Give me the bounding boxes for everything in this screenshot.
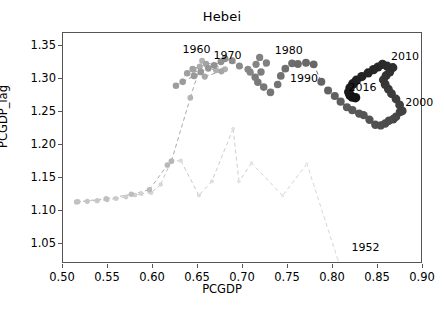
y-tick-label: 1.20	[18, 137, 56, 151]
data-point	[211, 62, 218, 69]
data-point	[260, 83, 268, 91]
y-tickmark	[58, 210, 62, 211]
y-tickmark	[58, 111, 62, 112]
chart-title: Hebei	[0, 9, 444, 24]
x-axis-label: PCGDP	[0, 282, 444, 296]
trajectory-segment	[239, 163, 252, 181]
y-tickmark	[58, 177, 62, 178]
data-point	[114, 196, 119, 201]
x-tick-label: 0.55	[94, 270, 120, 284]
y-tick-label: 1.30	[18, 71, 56, 85]
y-tick-label: 1.15	[18, 170, 56, 184]
trajectory-segment	[233, 129, 239, 182]
data-point	[305, 162, 308, 165]
y-tick-label: 1.25	[18, 104, 56, 118]
y-tick-label: 1.35	[18, 38, 56, 52]
year-annotation: 1980	[275, 43, 303, 56]
x-tickmark	[107, 264, 108, 268]
data-point	[302, 59, 310, 67]
trajectory-segment	[181, 161, 199, 196]
data-point	[324, 86, 332, 94]
x-tickmark	[197, 264, 198, 268]
x-tickmark	[62, 264, 63, 268]
data-point	[95, 198, 100, 203]
data-point	[277, 72, 285, 80]
x-tickmark	[422, 264, 423, 268]
data-point	[139, 191, 144, 196]
y-tick-label: 1.05	[18, 236, 56, 250]
year-annotation: 1970	[214, 49, 242, 62]
year-annotation: 2016	[349, 81, 377, 94]
year-annotation: 2010	[391, 50, 419, 63]
y-tick-label: 1.10	[18, 203, 56, 217]
trajectory-segment	[283, 164, 307, 196]
data-point	[256, 54, 263, 61]
data-point	[197, 69, 204, 76]
data-point	[254, 78, 261, 85]
x-tick-label: 0.50	[49, 270, 75, 284]
year-annotation: 1952	[351, 240, 379, 253]
x-tickmark	[287, 264, 288, 268]
year-annotation: 1990	[290, 71, 318, 84]
data-point	[281, 194, 284, 197]
data-point	[231, 127, 235, 131]
data-point	[337, 259, 339, 261]
data-point	[179, 79, 186, 86]
data-point	[310, 60, 318, 68]
x-tickmark	[332, 264, 333, 268]
data-point	[317, 78, 325, 86]
data-point	[197, 193, 201, 197]
data-point	[267, 89, 275, 97]
data-point	[169, 158, 175, 164]
y-tickmark	[58, 144, 62, 145]
data-point	[129, 192, 135, 198]
data-point	[263, 59, 270, 66]
data-point	[173, 83, 180, 90]
data-point	[218, 68, 224, 74]
x-tick-label: 0.80	[319, 270, 345, 284]
data-point	[331, 92, 339, 100]
data-point	[210, 179, 214, 183]
trajectory-segment	[77, 199, 107, 202]
data-point	[179, 159, 183, 163]
data-point	[274, 81, 282, 89]
x-tick-label: 0.65	[184, 270, 210, 284]
trajectory-segment	[199, 181, 212, 195]
data-point	[158, 182, 162, 186]
data-point	[191, 73, 198, 80]
y-tickmark	[58, 45, 62, 46]
data-point	[74, 199, 79, 204]
scatter-plot-canvas	[63, 33, 423, 264]
data-point	[103, 196, 108, 201]
data-point	[237, 180, 241, 184]
data-point	[165, 162, 171, 168]
year-annotation: 1960	[183, 42, 211, 55]
data-point	[281, 65, 289, 73]
x-tick-label: 0.85	[364, 270, 390, 284]
plot-area	[62, 32, 422, 263]
trajectory-segment	[171, 98, 190, 161]
x-tick-label: 0.60	[139, 270, 165, 284]
data-point	[257, 68, 264, 75]
data-point	[85, 199, 90, 204]
y-tickmark	[58, 243, 62, 244]
data-point	[147, 187, 153, 193]
trajectory-segment	[307, 164, 338, 260]
x-tickmark	[242, 264, 243, 268]
data-point	[351, 93, 361, 103]
x-tickmark	[152, 264, 153, 268]
data-point	[184, 70, 190, 76]
data-point	[124, 195, 129, 200]
chart-figure: Hebei PCGDP_lag PCGDP 1.051.101.151.201.…	[0, 0, 444, 310]
x-tickmark	[377, 264, 378, 268]
data-point	[236, 62, 243, 69]
y-tickmark	[58, 78, 62, 79]
trajectory-segment	[252, 163, 283, 196]
data-point	[250, 161, 253, 164]
x-tick-label: 0.70	[229, 270, 255, 284]
data-point	[205, 65, 212, 72]
trajectory-segment	[212, 129, 233, 181]
y-axis-label: PCGDP_lag	[0, 85, 10, 148]
data-point	[337, 98, 345, 106]
x-tick-label: 0.75	[274, 270, 300, 284]
